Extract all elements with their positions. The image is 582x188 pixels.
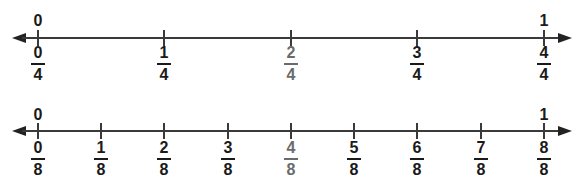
fraction-bar <box>221 158 235 160</box>
fraction-bar <box>284 63 298 65</box>
tick-6-8 <box>416 123 418 139</box>
denominator: 8 <box>89 162 113 178</box>
fraction-bar <box>347 158 361 160</box>
denominator: 8 <box>26 162 50 178</box>
fraction-label-1-8: 1 8 <box>89 140 113 178</box>
numerator: 3 <box>216 140 240 156</box>
fraction-label-1-4: 1 4 <box>152 45 176 83</box>
denominator: 8 <box>532 162 556 178</box>
fraction-label-4-8-highlighted: 4 8 <box>279 140 303 178</box>
tick-8-8 <box>543 123 545 139</box>
denominator: 8 <box>405 162 429 178</box>
denominator: 8 <box>216 162 240 178</box>
fraction-label-6-8: 6 8 <box>405 140 429 178</box>
whole-label-start: 0 <box>28 13 48 29</box>
tick-1-8 <box>100 123 102 139</box>
fraction-bar <box>537 158 551 160</box>
fraction-bar <box>31 158 45 160</box>
fraction-bar <box>410 63 424 65</box>
tick-4-8 <box>290 123 292 139</box>
whole-label-end: 1 <box>534 13 554 29</box>
fraction-label-2-4-highlighted: 2 4 <box>279 45 303 83</box>
numerator: 7 <box>469 140 493 156</box>
fraction-label-4-4: 4 4 <box>532 45 556 83</box>
fraction-label-5-8: 5 8 <box>342 140 366 178</box>
tick-5-8 <box>353 123 355 139</box>
denominator: 4 <box>405 67 429 83</box>
arrow-right-icon <box>558 33 572 43</box>
denominator: 4 <box>152 67 176 83</box>
denominator: 4 <box>532 67 556 83</box>
number-line-fourths: 0 1 0 4 1 4 2 4 3 4 4 4 <box>0 0 582 94</box>
numerator: 2 <box>279 45 303 61</box>
numerator: 3 <box>405 45 429 61</box>
fraction-bar <box>537 63 551 65</box>
numerator: 6 <box>405 140 429 156</box>
fraction-bar <box>157 158 171 160</box>
fraction-bar <box>31 63 45 65</box>
fraction-label-2-8: 2 8 <box>152 140 176 178</box>
fraction-label-0-4: 0 4 <box>26 45 50 83</box>
denominator: 4 <box>26 67 50 83</box>
denominator: 8 <box>152 162 176 178</box>
numerator: 5 <box>342 140 366 156</box>
number-line-eighths: 0 1 0 8 1 8 2 8 3 8 4 8 5 8 6 8 <box>0 94 582 188</box>
denominator: 8 <box>279 162 303 178</box>
fraction-bar <box>410 158 424 160</box>
numerator: 4 <box>279 140 303 156</box>
axis-line <box>22 37 562 39</box>
denominator: 8 <box>342 162 366 178</box>
fraction-label-7-8: 7 8 <box>469 140 493 178</box>
fraction-label-3-8: 3 8 <box>216 140 240 178</box>
tick-7-8 <box>480 123 482 139</box>
fraction-label-0-8: 0 8 <box>26 140 50 178</box>
fraction-bar <box>157 63 171 65</box>
fraction-bar <box>94 158 108 160</box>
whole-label-start: 0 <box>28 107 48 123</box>
fraction-bar <box>474 158 488 160</box>
arrow-right-icon <box>558 126 572 136</box>
denominator: 4 <box>279 67 303 83</box>
numerator: 1 <box>89 140 113 156</box>
tick-2-8 <box>163 123 165 139</box>
numerator: 2 <box>152 140 176 156</box>
numerator: 1 <box>152 45 176 61</box>
denominator: 8 <box>469 162 493 178</box>
tick-0-8 <box>37 123 39 139</box>
numerator: 4 <box>532 45 556 61</box>
whole-label-end: 1 <box>534 107 554 123</box>
fraction-bar <box>284 158 298 160</box>
tick-3-8 <box>227 123 229 139</box>
numerator: 0 <box>26 140 50 156</box>
numerator: 8 <box>532 140 556 156</box>
numerator: 0 <box>26 45 50 61</box>
fraction-label-3-4: 3 4 <box>405 45 429 83</box>
fraction-label-8-8: 8 8 <box>532 140 556 178</box>
